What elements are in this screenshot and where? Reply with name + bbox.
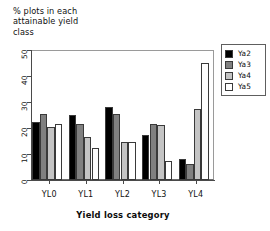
y-tick-label: 50 — [20, 50, 29, 74]
legend-label: Ya4 — [238, 71, 251, 80]
legend: Ya2Ya3Ya4Ya5 — [221, 44, 266, 96]
legend-item: Ya3 — [225, 59, 263, 70]
y-tick-label: 20 — [20, 128, 29, 152]
plot-area — [31, 50, 214, 180]
x-tick — [159, 181, 160, 184]
legend-label: Ya3 — [238, 60, 251, 69]
bar-chart: % plots in each attainable yield class 0… — [0, 0, 270, 231]
legend-item: Ya5 — [225, 81, 263, 92]
x-tick-label: YL1 — [66, 190, 106, 199]
legend-item: Ya2 — [225, 48, 263, 59]
x-tick-label: YL2 — [103, 190, 143, 199]
chart-title: % plots in each attainable yield class — [13, 6, 163, 37]
x-tick-label: YL0 — [29, 190, 69, 199]
y-tick-label: 40 — [20, 76, 29, 100]
x-tick — [196, 181, 197, 184]
x-tick — [123, 181, 124, 184]
y-tick-label: 0 — [20, 180, 29, 204]
legend-label: Ya5 — [238, 82, 251, 91]
x-tick — [49, 181, 50, 184]
y-tick-label: 30 — [20, 102, 29, 126]
legend-label: Ya2 — [238, 49, 251, 58]
y-axis — [31, 50, 32, 181]
legend-item: Ya4 — [225, 70, 263, 81]
legend-swatch-icon — [225, 72, 233, 80]
legend-swatch-icon — [225, 61, 233, 69]
x-tick-label: YL3 — [139, 190, 179, 199]
y-tick-label: 10 — [20, 154, 29, 178]
x-axis-title: Yield loss category — [31, 210, 215, 220]
legend-swatch-icon — [225, 83, 233, 91]
x-tick-label: YL4 — [176, 190, 216, 199]
legend-swatch-icon — [225, 50, 233, 58]
x-tick — [86, 181, 87, 184]
